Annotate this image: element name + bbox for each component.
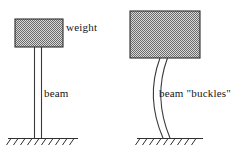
ground-right	[136, 139, 204, 146]
weight-block-left	[15, 19, 63, 47]
label-beam-buckles: beam "buckles"	[159, 87, 231, 99]
ground-hatch-left	[7, 139, 75, 146]
diagram-canvas	[0, 0, 247, 168]
label-beam: beam	[44, 87, 69, 99]
ground-hatch-right	[136, 139, 197, 146]
weight-block-right	[130, 11, 200, 58]
label-weight: weight	[66, 21, 97, 33]
ground-left	[7, 139, 79, 146]
right-panel-group	[130, 11, 203, 145]
left-panel-group	[7, 19, 79, 145]
